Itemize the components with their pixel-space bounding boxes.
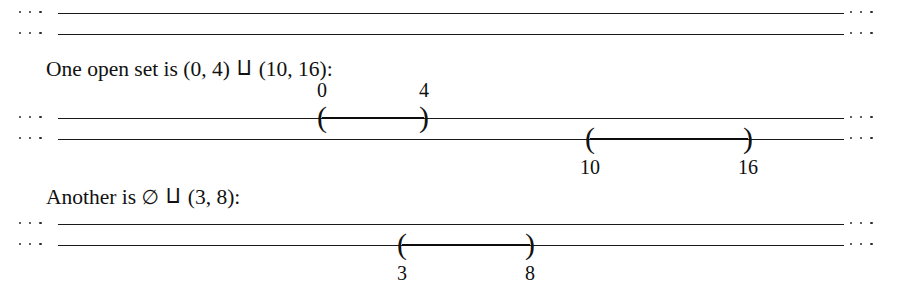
ellipsis-right-icon (850, 110, 873, 124)
ellipsis-left-icon (19, 26, 42, 40)
ellipsis-right-icon (850, 237, 873, 251)
close-paren-icon: ) (416, 101, 432, 135)
empty-set-icon: ∅ (142, 185, 159, 209)
caption-second-interval: (10, 16) (259, 57, 327, 81)
caption-suffix: : (327, 57, 333, 81)
interval-end-label: 16 (722, 157, 774, 177)
open-paren-icon: ( (582, 122, 598, 156)
number-line-top-2 (0, 34, 901, 36)
coproduct-icon: ⨿ (235, 58, 253, 78)
interval-start-label: 10 (564, 157, 616, 177)
line-rule (58, 34, 844, 35)
line-rule (58, 13, 844, 14)
ellipsis-left-icon (19, 110, 42, 124)
ellipsis-right-icon (850, 131, 873, 145)
interval-end-label: 8 (504, 263, 556, 283)
interval-segment (402, 244, 530, 246)
interval-start-label: 0 (296, 80, 348, 100)
interval-segment (590, 138, 748, 140)
caption-another-is: Another is ∅ ⨿ (3, 8): (46, 187, 240, 209)
caption-suffix: : (234, 185, 240, 209)
ellipsis-right-icon (850, 5, 873, 19)
caption-one-open-set: One open set is (0, 4) ⨿ (10, 16): (46, 59, 333, 81)
number-line-top-1 (0, 13, 901, 15)
line-rule (58, 224, 844, 225)
ellipsis-left-icon (19, 5, 42, 19)
interval-segment (322, 117, 424, 119)
open-paren-icon: ( (314, 101, 330, 135)
caption-first-interval: (0, 4) (183, 57, 230, 81)
coproduct-icon: ⨿ (164, 186, 182, 206)
number-line-mid-1: ( ) 0 4 (0, 118, 901, 120)
number-line-bot-2: ( ) 3 8 (0, 245, 901, 247)
caption-prefix: One open set is (46, 57, 178, 81)
close-paren-icon: ) (522, 228, 538, 262)
interval-end-label: 4 (398, 80, 450, 100)
ellipsis-right-icon (850, 216, 873, 230)
number-line-mid-2: ( ) 10 16 (0, 139, 901, 141)
number-line-bot-1 (0, 224, 901, 226)
close-paren-icon: ) (740, 122, 756, 156)
open-paren-icon: ( (394, 228, 410, 262)
figure-canvas: One open set is (0, 4) ⨿ (10, 16): ( ) 0… (0, 0, 901, 299)
line-rule (58, 118, 844, 119)
caption-second-interval: (3, 8) (188, 185, 235, 209)
ellipsis-left-icon (19, 131, 42, 145)
ellipsis-left-icon (19, 237, 42, 251)
caption-prefix: Another is (46, 185, 136, 209)
ellipsis-left-icon (19, 216, 42, 230)
ellipsis-right-icon (850, 26, 873, 40)
interval-start-label: 3 (376, 263, 428, 283)
